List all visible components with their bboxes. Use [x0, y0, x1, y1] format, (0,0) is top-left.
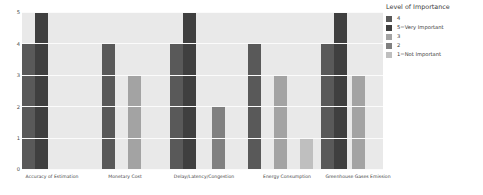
legend-item[interactable]: 1=Not Important	[386, 50, 481, 59]
legend-swatch-icon	[386, 16, 392, 22]
gridline	[22, 43, 383, 44]
y-axis-tick-label: 0	[2, 167, 20, 172]
y-axis-tick-label: 5	[2, 10, 20, 15]
bar	[274, 76, 287, 170]
legend-item-label: 5=Very Important	[397, 25, 444, 30]
bar	[248, 44, 261, 170]
legend-swatch-icon	[386, 43, 392, 49]
bar	[35, 13, 48, 170]
y-axis-tick-label: 1	[2, 136, 20, 141]
x-axis-tick-label: Delay/Latency/Congestion	[174, 174, 234, 179]
legend-item-label: 4	[397, 16, 400, 21]
x-axis-tick-label: Monetary Cost	[108, 174, 141, 179]
bar	[321, 44, 334, 170]
gridline	[22, 138, 383, 139]
bar	[300, 139, 313, 170]
legend-swatch-icon	[386, 25, 392, 31]
legend-title: Level of Importance	[386, 4, 481, 10]
x-axis: Accuracy of EstimationMonetary CostDelay…	[22, 171, 383, 185]
legend-item-label: 1=Not Important	[397, 52, 441, 57]
y-axis-tick-label: 2	[2, 105, 20, 110]
gridline	[22, 106, 383, 107]
legend-item[interactable]: 4	[386, 14, 481, 23]
bar	[102, 44, 115, 170]
x-axis-tick-label: Energy Consumption	[263, 174, 311, 179]
legend-item[interactable]: 5=Very Important	[386, 23, 481, 32]
x-axis-tick-label: Accuracy of Estimation	[26, 174, 79, 179]
bar	[352, 76, 365, 170]
legend-swatch-icon	[386, 34, 392, 40]
bar	[128, 76, 141, 170]
gridline	[22, 75, 383, 76]
legend-item-label: 3	[397, 34, 400, 39]
gridline	[22, 12, 383, 13]
legend-entries: 45=Very Important321=Not Important	[386, 14, 481, 59]
legend-item[interactable]: 2	[386, 41, 481, 50]
x-axis-tick-label: Greenhouse Gases Emission	[325, 174, 390, 179]
plot-area	[22, 13, 383, 170]
legend-item-label: 2	[397, 43, 400, 48]
legend-item[interactable]: 3	[386, 32, 481, 41]
y-axis-tick-label: 4	[2, 42, 20, 47]
bar	[334, 13, 347, 170]
bar	[22, 44, 35, 170]
legend-swatch-icon	[386, 52, 392, 58]
chart-figure: 012345 Accuracy of EstimationMonetary Co…	[0, 0, 483, 195]
chart-legend: Level of Importance 45=Very Important321…	[386, 4, 481, 59]
bar	[170, 44, 183, 170]
bar	[183, 13, 196, 170]
y-axis-tick-label: 3	[2, 73, 20, 78]
bars-layer	[22, 13, 383, 170]
y-axis: 012345	[0, 13, 20, 170]
gridline	[22, 169, 383, 170]
